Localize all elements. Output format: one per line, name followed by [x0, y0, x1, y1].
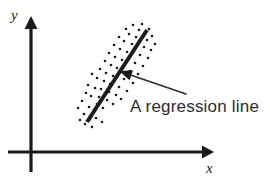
scatter-point [121, 59, 124, 62]
scatter-point [112, 103, 115, 106]
scatter-point [77, 107, 80, 110]
scatter-point [87, 84, 90, 87]
scatter-point [135, 36, 138, 39]
scatter-point [100, 88, 103, 91]
scatter-point [83, 113, 86, 116]
scatter-point [91, 126, 94, 129]
scatter-point [115, 94, 118, 97]
scatter-point [138, 29, 141, 32]
y-axis [25, 16, 38, 172]
x-axis-label: x [205, 160, 213, 176]
scatter-point [125, 28, 128, 31]
scatter-point [114, 56, 117, 59]
scatter-point [128, 33, 131, 36]
scatter-point [146, 39, 149, 42]
x-axis [8, 146, 214, 159]
regression-figure: y x A regression line [0, 0, 270, 192]
scatter-point [139, 54, 142, 57]
y-axis-arrowhead [25, 16, 38, 29]
scatter-point [118, 36, 121, 39]
scatter-point [123, 78, 126, 81]
scatter-point [112, 75, 115, 78]
scatter-point [79, 119, 82, 122]
scatter-point [151, 35, 154, 38]
scatter-point [134, 62, 137, 65]
annotation-leader-line [131, 75, 186, 94]
scatter-point [147, 57, 150, 60]
scatter-point [90, 95, 93, 98]
scatter-point [123, 40, 126, 43]
scatter-point [118, 86, 121, 89]
scatter-point [119, 48, 122, 51]
scatter-point [150, 49, 153, 52]
scatter-point [110, 64, 113, 67]
scatter-point [103, 80, 106, 83]
scatter-point [137, 73, 140, 76]
scatter-point [132, 82, 135, 85]
scatter-point [105, 72, 108, 75]
scatter-point [142, 65, 145, 68]
scatter-point [126, 90, 129, 93]
scatter-point [131, 43, 134, 46]
scatter-point [94, 87, 97, 90]
scatter-point [101, 121, 104, 124]
scatter-point [141, 23, 144, 26]
figure-canvas: y x A regression line [0, 0, 270, 192]
scatter-point [108, 52, 111, 55]
scatter-point [148, 28, 151, 31]
scatter-point [85, 92, 88, 95]
annotation-arrowhead [119, 70, 133, 80]
scatter-point [95, 117, 98, 120]
annotation-label: A regression line [130, 97, 259, 116]
scatter-point [98, 96, 101, 99]
scatter-point [116, 67, 119, 70]
scatter-point [104, 60, 107, 63]
scatter-point [126, 51, 129, 54]
scatter-point [113, 44, 116, 47]
scatter-point [106, 99, 109, 102]
scatter-point [120, 98, 123, 101]
scatter-point [99, 68, 102, 71]
x-axis-arrowhead [202, 146, 214, 159]
scatter-point [91, 73, 94, 76]
scatter-point [132, 24, 135, 27]
y-axis-label: y [9, 7, 18, 23]
scatter-point [88, 106, 91, 109]
scatter-point [96, 77, 99, 80]
annotation-pointer [119, 70, 186, 94]
scatter-point [84, 123, 87, 126]
scatter-point [143, 46, 146, 49]
scatter-point [154, 43, 157, 46]
scatter-point [81, 100, 84, 103]
scatter-point [102, 107, 105, 110]
